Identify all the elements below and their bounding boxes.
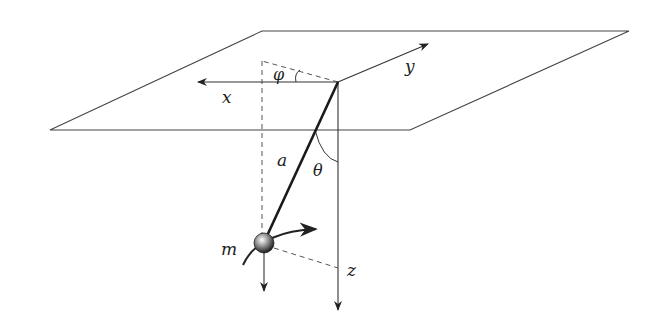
- y-axis-label: y: [404, 56, 415, 76]
- mass-bob: [254, 233, 274, 253]
- theta-label: θ: [313, 161, 323, 180]
- z-axis-label: z: [346, 260, 357, 280]
- length-label: a: [277, 150, 287, 170]
- horizontal-plane: [50, 31, 629, 130]
- trajectory-arrow: [272, 229, 316, 238]
- theta-angle-arc: [315, 130, 338, 162]
- mass-label: m: [221, 239, 237, 259]
- phi-label: φ: [273, 65, 285, 84]
- mass-to-z-dashed: [274, 248, 338, 268]
- spherical-pendulum-diagram: x y z φ θ a m: [0, 0, 661, 329]
- x-axis-label: x: [222, 87, 232, 107]
